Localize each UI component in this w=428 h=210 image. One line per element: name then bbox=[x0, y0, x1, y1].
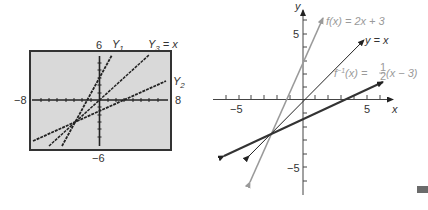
calculator-graph-panel: 6 −6 −8 8 Y1 Y2 Y3 = x bbox=[0, 0, 210, 210]
calculator-graph: 6 −6 −8 8 Y1 Y2 Y3 = x bbox=[0, 0, 210, 210]
y-neg5-label: −5 bbox=[287, 162, 300, 174]
calc-ymax-label: 6 bbox=[96, 39, 102, 51]
x-neg5-label: −5 bbox=[230, 103, 243, 115]
f-label: f(x) = 2x + 3 bbox=[326, 15, 386, 27]
calc-y2-label: Y2 bbox=[173, 75, 185, 90]
calc-xmax-label: 8 bbox=[175, 94, 181, 106]
page-marker bbox=[417, 186, 428, 193]
calc-xmin-label: −8 bbox=[14, 94, 27, 106]
calc-ymin-label: −6 bbox=[92, 152, 105, 164]
y-pos5-label: 5 bbox=[293, 28, 299, 40]
svg-text:(x − 3): (x − 3) bbox=[386, 67, 418, 79]
y-axis-label: y bbox=[294, 0, 302, 12]
x-pos5-label: 5 bbox=[364, 103, 370, 115]
y-axis bbox=[303, 10, 307, 195]
function-inverse-graph: −5 5 5 −5 x y f(x) = 2x + 3 y = x f−1(x)… bbox=[200, 0, 428, 210]
function-inverse-graph-panel: −5 5 5 −5 x y f(x) = 2x + 3 y = x f−1(x)… bbox=[200, 0, 428, 210]
inverse-label: f−1(x) = 1 2 (x − 3) bbox=[334, 61, 418, 82]
x-axis-label: x bbox=[391, 103, 398, 115]
svg-text:f−1(x) =: f−1(x) = bbox=[334, 67, 368, 79]
identity-label: y = x bbox=[364, 34, 389, 46]
